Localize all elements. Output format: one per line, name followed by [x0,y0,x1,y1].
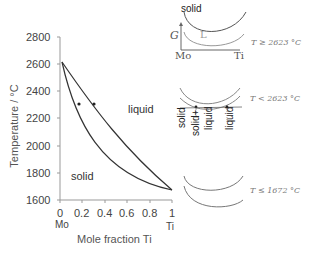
g-x-right-label: Ti [234,50,244,61]
solidus-marker [77,102,80,105]
region-solid: solid [176,98,187,128]
solid-region-label: solid [71,170,94,182]
x-tick: 0 [57,207,63,219]
liquid-region-label: liquid [128,103,154,115]
solid-label-top: solid [181,3,202,14]
x-tick: 0.2 [74,207,89,219]
condition-bottom: T ≤ 1672 °C [250,186,300,195]
solid-G-curve-bottom [184,186,243,207]
x-tick: 0.6 [119,207,134,219]
condition-top: T ≥ 2623 °C [251,38,301,47]
y-tick: 2400 [26,85,50,97]
liquid-G-curve-top [184,32,244,46]
x-tick: 0.4 [97,207,112,219]
y-tick: 2800 [26,31,50,43]
x-axis-label: Mole fraction Ti [77,233,152,245]
g-x-left-label: Mo [175,50,191,61]
y-axis-label: Temperature / °C [8,76,20,176]
x-tick: 1 [169,207,175,219]
y-tick: 1800 [26,167,50,179]
x-end-label-mo: Mo [55,219,69,230]
y-tick: 2200 [26,112,50,124]
liquid-G-curve-bottom [184,176,243,190]
x-tick: 0.8 [142,207,157,219]
region-liquid: liquid [224,90,235,130]
liquid-label-top: L [200,29,207,40]
y-tick: 2000 [26,140,50,152]
g-axis-label: G [170,29,179,42]
condition-middle: T < 2623 °C [250,94,300,103]
x-end-label-ti: Ti [166,221,174,232]
region-liquid-mix: liquid [203,90,214,130]
liquidus-marker [92,102,95,105]
region-solid-plus: solid+ [190,96,201,136]
solid-G-curve-top [184,12,246,32]
y-tick: 2600 [26,58,50,70]
y-tick: 1600 [26,194,50,206]
